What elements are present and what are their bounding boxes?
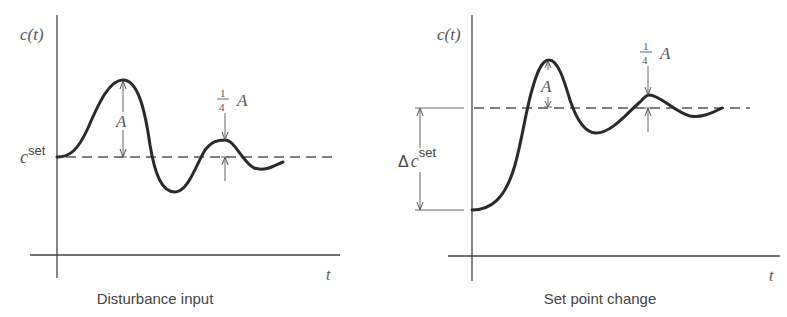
caption-setpoint-change: Set point change xyxy=(544,290,657,307)
svg-text:1: 1 xyxy=(220,87,226,99)
svg-text:4: 4 xyxy=(219,101,225,113)
amplitude-a-label: A xyxy=(115,112,127,131)
panel-setpoint-change: c(t) Δcset A 1 xyxy=(398,15,780,307)
y-axis-label: c(t) xyxy=(437,25,461,44)
setpoint-step-marker: Δcset xyxy=(398,108,436,210)
y-axis-label: c(t) xyxy=(20,25,44,44)
svg-text:4: 4 xyxy=(642,54,648,66)
amplitude-a-marker: A xyxy=(115,81,127,157)
figure-canvas: c(t) cset A 1 4 A xyxy=(0,0,787,317)
x-axis-label: t xyxy=(326,266,331,283)
svg-text:1: 1 xyxy=(643,40,649,52)
setpoint-step-label: Δcset xyxy=(398,145,436,171)
panel-disturbance: c(t) cset A 1 4 A xyxy=(20,15,340,307)
x-axis-label: t xyxy=(769,267,774,284)
amplitude-a-label: A xyxy=(540,77,552,96)
svg-text:A: A xyxy=(659,44,671,63)
response-curve xyxy=(57,80,283,192)
svg-text:A: A xyxy=(236,91,248,110)
quarter-amplitude-marker: 1 4 A xyxy=(640,40,671,132)
quarter-amplitude-marker: 1 4 A xyxy=(217,87,248,181)
setpoint-label: cset xyxy=(20,143,46,167)
response-curve xyxy=(472,60,722,210)
caption-disturbance: Disturbance input xyxy=(97,290,215,307)
